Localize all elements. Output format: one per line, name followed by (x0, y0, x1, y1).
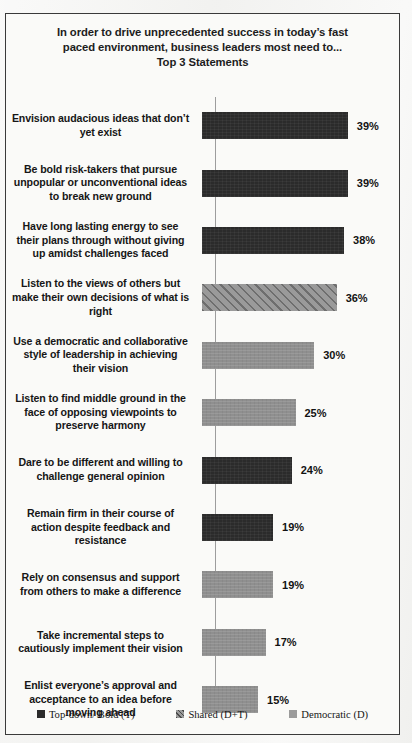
bar-value-label: 17% (275, 636, 297, 648)
legend-label: Democratic (D) (301, 709, 368, 720)
category-label-line: up amidst challenges faced (6, 247, 195, 261)
bar-row: Have long lasting energy to seetheir pla… (6, 212, 399, 269)
category-label-line: Listen to find middle ground in the (6, 392, 195, 406)
category-label: Dare to be different and willing tochall… (6, 456, 202, 483)
legend-label: Top-down/ Bold (T) (49, 709, 135, 720)
bar-value-label: 19% (282, 521, 304, 533)
legend-item[interactable]: Top-down/ Bold (T) (37, 709, 135, 720)
bar[interactable]: 39% (202, 112, 348, 139)
chart-legend: Top-down/ Bold (T)Shared (D+T)Democratic… (16, 703, 389, 725)
category-label-line: action despite feedback and (6, 521, 195, 535)
category-label-line: Remain firm in their course of (6, 507, 195, 521)
bar-row: Dare to be different and willing tochall… (6, 441, 399, 498)
category-label: Listen to find middle ground in theface … (6, 392, 202, 433)
chart-title-line: In order to drive unprecedented success … (24, 25, 381, 40)
bar-row: Take incremental steps tocautiously impl… (6, 614, 399, 671)
bar-value-label: 19% (282, 579, 304, 591)
category-label: Use a democratic and collaborativestyle … (6, 335, 202, 376)
bar[interactable]: 39% (202, 170, 348, 197)
category-label-line: face of opposing viewpoints to (6, 406, 195, 420)
category-label-line: challenge general opinion (6, 470, 195, 484)
legend-swatch-gray (289, 710, 297, 718)
bar-track: 19% (202, 499, 399, 556)
bar-row: Rely on consensus and supportfrom others… (6, 556, 399, 613)
bar-track: 39% (202, 97, 399, 154)
category-label: Listen to the views of others butmake th… (6, 277, 202, 318)
legend-item[interactable]: Democratic (D) (289, 709, 368, 720)
bar-value-label: 39% (357, 177, 379, 189)
bar-track: 17% (202, 614, 399, 671)
category-label: Remain firm in their course ofaction des… (6, 507, 202, 548)
category-label-line: Have long lasting energy to see (6, 220, 195, 234)
legend-swatch-dark (37, 710, 45, 718)
category-label-line: resistance (6, 534, 195, 548)
bar-row: Use a democratic and collaborativestyle … (6, 327, 399, 384)
bar-track: 25% (202, 384, 399, 441)
category-label-line: style of leadership in achieving (6, 348, 195, 362)
bar-row: Envision audacious ideas that don’tyet e… (6, 97, 399, 154)
bar-row: Listen to find middle ground in theface … (6, 384, 399, 441)
bar[interactable]: 30% (202, 342, 314, 369)
chart-frame: In order to drive unprecedented success … (5, 13, 400, 735)
category-label-line: their vision (6, 362, 195, 376)
bar-value-label: 30% (323, 349, 345, 361)
category-label-line: Be bold risk-takers that pursue (6, 163, 195, 177)
bar-track: 38% (202, 212, 399, 269)
category-label-line: Listen to the views of others but (6, 277, 195, 291)
legend-swatch-hatch (176, 710, 184, 718)
bar[interactable]: 17% (202, 629, 266, 656)
category-label-line: Envision audacious ideas that don’t (6, 112, 195, 126)
category-label-line: Enlist everyone’s approval and (6, 679, 195, 693)
category-label-line: cautiously implement their vision (6, 642, 195, 656)
category-label-line: yet exist (6, 126, 195, 140)
category-label-line: from others to make a difference (6, 585, 195, 599)
bar-value-label: 24% (301, 464, 323, 476)
category-label-line: Use a democratic and collaborative (6, 335, 195, 349)
category-label-line: Rely on consensus and support (6, 571, 195, 585)
bar[interactable]: 38% (202, 227, 344, 254)
bar[interactable]: 36% (202, 284, 337, 311)
bar-track: 39% (202, 154, 399, 211)
bar-value-label: 39% (357, 120, 379, 132)
bar-track: 24% (202, 441, 399, 498)
category-label-line: Dare to be different and willing to (6, 456, 195, 470)
category-label-line: right (6, 305, 195, 319)
bar-track: 30% (202, 327, 399, 384)
category-label: Take incremental steps tocautiously impl… (6, 629, 202, 656)
bar-track: 36% (202, 269, 399, 326)
category-label: Have long lasting energy to seetheir pla… (6, 220, 202, 261)
category-label: Be bold risk-takers that pursueunpopular… (6, 163, 202, 204)
category-label: Rely on consensus and supportfrom others… (6, 571, 202, 598)
category-label-line: their plans through without giving (6, 234, 195, 248)
bar-value-label: 25% (305, 407, 327, 419)
chart-title: In order to drive unprecedented success … (24, 25, 381, 71)
category-label-line: make their own decisions of what is (6, 291, 195, 305)
category-label-line: preserve harmony (6, 419, 195, 433)
chart-title-line: Top 3 Statements (24, 55, 381, 70)
bar-row: Listen to the views of others butmake th… (6, 269, 399, 326)
category-label-line: to break new ground (6, 190, 195, 204)
bar-value-label: 36% (346, 292, 368, 304)
bar-track: 19% (202, 556, 399, 613)
bar[interactable]: 24% (202, 457, 292, 484)
bar-row: Be bold risk-takers that pursueunpopular… (6, 154, 399, 211)
bar[interactable]: 25% (202, 399, 296, 426)
bar[interactable]: 19% (202, 514, 273, 541)
legend-item[interactable]: Shared (D+T) (176, 709, 247, 720)
legend-label: Shared (D+T) (188, 709, 247, 720)
category-label-line: Take incremental steps to (6, 629, 195, 643)
category-label: Envision audacious ideas that don’tyet e… (6, 112, 202, 139)
bar-value-label: 38% (353, 234, 375, 246)
bar-row: Remain firm in their course ofaction des… (6, 499, 399, 556)
bar[interactable]: 19% (202, 571, 273, 598)
chart-title-line: paced environment, business leaders most… (24, 40, 381, 55)
category-label-line: unpopular or unconventional ideas (6, 176, 195, 190)
plot-area: Envision audacious ideas that don’tyet e… (6, 97, 399, 690)
